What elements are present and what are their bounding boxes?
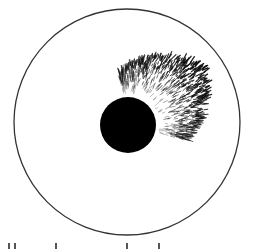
inner-disc [100, 97, 156, 153]
figure-illustration [0, 0, 253, 249]
cropped-caption [0, 243, 253, 249]
